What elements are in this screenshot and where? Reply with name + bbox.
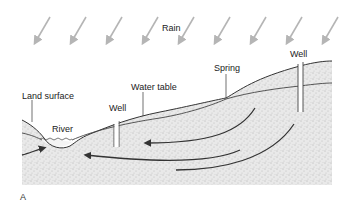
water-table-label: Water table [131, 83, 177, 92]
rain-arrows [36, 17, 338, 41]
rain-label: Rain [162, 24, 181, 33]
groundwater-diagram: Rain Land surface River Well Water table… [0, 0, 352, 209]
well-left [114, 121, 119, 147]
well-right [298, 62, 303, 112]
river-label: River [52, 125, 73, 134]
land-surface-label: Land surface [22, 92, 74, 101]
well-left-label: Well [109, 104, 126, 113]
spring-label: Spring [214, 64, 240, 73]
figure-letter: A [20, 192, 26, 202]
ground-body [22, 61, 332, 185]
well-right-label: Well [290, 50, 307, 59]
